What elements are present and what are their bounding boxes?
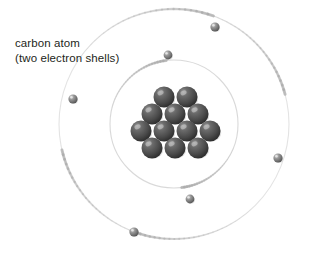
electron-outer-bottom-left [129,227,139,237]
electron-outer-top-right [210,22,220,32]
electron-outer-bottom-left-tail-segment [239,216,243,219]
electron-outer-bottom-left-tail-segment [235,219,239,222]
electron-outer-right-tail-segment [222,20,226,22]
nucleus [131,87,222,159]
electron-outer-left-tail-segment [120,226,124,228]
electron-outer-left-tail-segment [125,228,130,230]
caption-subtitle: (two electron shells) [15,51,195,66]
electron-outer-top-right-tail-segment [118,21,123,24]
electron-outer-right [273,153,283,163]
carbon-atom-diagram: carbon atom (two electron shells) [0,0,312,254]
electron-outer-left-tail-segment [62,150,63,155]
electron-outer-left-tail-segment [116,223,120,225]
electron-outer-bottom-left-tail-segment [231,221,235,224]
figure-caption: carbon atom (two electron shells) [15,36,195,66]
electron-outer-right-tail-segment [218,18,222,20]
electron-outer-top-right-tail-segment [113,23,118,26]
electron-outer-bottom-left-tail-segment [243,213,247,216]
electron-outer-bottom-left-tail-segment [247,209,251,212]
nucleon-r2-c3 [200,121,222,142]
electron-outer-bottom-left-tail-segment [218,228,223,230]
caption-title: carbon atom [15,36,195,51]
electron-outer-top-right-tail-segment [108,26,113,29]
electron-outer-right-tail-segment [284,90,285,95]
electron-outer-bottom-left-tail-segment [222,226,226,228]
electron-outer-top-right-tail-segment [123,18,128,20]
electron-outer-left-tail-segment [112,221,116,224]
electron-outer-left [68,94,78,104]
electron-outer-bottom-left-tail-segment [227,224,231,226]
electron-inner-lower [186,195,195,204]
electron-outer-right-tail-segment [227,22,231,24]
electron-outer-top-right-tail-segment [104,30,109,33]
